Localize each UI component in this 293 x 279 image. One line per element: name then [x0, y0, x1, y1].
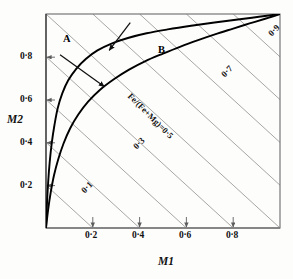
y-tick-label-2: 0·6: [20, 94, 32, 104]
plot-canvas: [0, 0, 293, 279]
figure-container: 0·2 0·4 0·6 0·8 0·8 0·6 0·4 0·2 M1 M2 A …: [0, 0, 293, 279]
y-tick-label-0: 0·2: [20, 180, 32, 190]
x-tick-label-3: 0·8: [226, 230, 238, 240]
x-tick-label-0: 0·2: [85, 230, 97, 240]
curve-label-a: A: [63, 33, 71, 44]
y-tick-label-1: 0·4: [20, 137, 32, 147]
curve-label-b: B: [158, 44, 165, 55]
y-tick-label-3: 0·8: [20, 51, 32, 61]
x-tick-label-1: 0·4: [132, 230, 144, 240]
y-axis-title: M2: [7, 113, 23, 125]
x-tick-label-2: 0·6: [179, 230, 191, 240]
x-axis-title: M1: [158, 255, 174, 267]
